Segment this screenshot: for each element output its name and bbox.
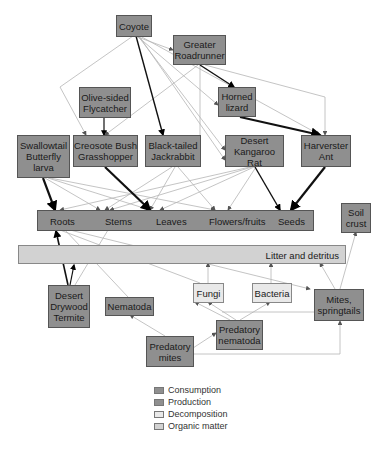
- node-desert-drywood-termite: Desert Drywood Termite: [48, 285, 90, 328]
- node-swallowtail-larva: Swallowtail Butterfly larva: [17, 135, 70, 178]
- label-stems: Stems: [105, 215, 132, 226]
- legend-label: Consumption: [168, 385, 221, 395]
- label-litter-detritus: Litter and detritus: [266, 249, 339, 260]
- node-fungi: Fungi: [193, 283, 224, 303]
- swatch-production: [154, 399, 164, 406]
- node-olive-sided-flycatcher: Olive-sided Flycatcher: [79, 87, 131, 118]
- node-bacteria: Bacteria: [252, 283, 292, 303]
- legend-item-organic-matter: Organic matter: [154, 420, 228, 432]
- legend-label: Decomposition: [168, 409, 228, 419]
- swatch-decomposition: [154, 411, 164, 418]
- label-flowers-fruits: Flowers/fruits: [209, 215, 265, 226]
- node-horned-lizard: Horned lizard: [218, 87, 256, 117]
- litter-detritus-bar: Litter and detritus: [18, 245, 346, 264]
- legend-label: Organic matter: [168, 421, 228, 431]
- node-nematoda: Nematoda: [105, 297, 154, 316]
- label-leaves: Leaves: [156, 215, 187, 226]
- node-greater-roadrunner: Greater Roadrunner: [173, 35, 226, 65]
- swatch-organic-matter: [154, 423, 164, 430]
- label-roots: Roots: [50, 215, 75, 226]
- label-seeds: Seeds: [278, 215, 305, 226]
- legend-label: Production: [168, 397, 211, 407]
- node-creosote-grasshopper: Creosote Bush Grasshopper: [73, 135, 138, 167]
- legend-item-decomposition: Decomposition: [154, 408, 228, 420]
- node-predatory-mites: Predatory mites: [146, 336, 194, 367]
- legend-item-consumption: Consumption: [154, 384, 228, 396]
- node-soil-crust: Soil crust: [341, 203, 371, 233]
- node-predatory-nematoda: Predatory nematoda: [216, 320, 263, 350]
- node-mites-springtails: Mites, springtails: [314, 289, 364, 321]
- legend-item-production: Production: [154, 396, 228, 408]
- node-harvester-ant: Harverster Ant: [301, 135, 351, 167]
- legend: Consumption Production Decomposition Org…: [154, 384, 228, 432]
- plant-parts-bar: Roots Stems Leaves Flowers/fruits Seeds: [37, 210, 314, 231]
- node-black-tailed-jackrabbit: Black-tailed Jackrabbit: [145, 135, 201, 167]
- node-coyote: Coyote: [116, 15, 152, 37]
- swatch-consumption: [154, 387, 164, 394]
- node-desert-kangaroo-rat: Desert Kangaroo Rat: [225, 135, 284, 167]
